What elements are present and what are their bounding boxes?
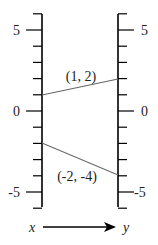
left-tick-label-5: 5 xyxy=(13,23,20,38)
left-number-line: 5 0 -5 xyxy=(8,14,42,208)
arrow-to-label: y xyxy=(121,220,130,235)
right-number-line: 5 0 -5 xyxy=(118,14,148,208)
mapping-lines: (1, 2) (-2, -4) xyxy=(42,69,118,185)
right-tick-label-neg5: -5 xyxy=(134,185,146,200)
direction-arrow: x y xyxy=(28,220,130,235)
right-tick-label-5: 5 xyxy=(141,23,148,38)
mapping-label-2: (-2, -4) xyxy=(57,169,97,185)
left-tick-label-0: 0 xyxy=(13,104,20,119)
mapping-diagram: 5 0 -5 5 0 -5 (1, 2) (-2, -4) x y xyxy=(0,0,158,245)
right-tick-label-0: 0 xyxy=(141,104,148,119)
right-axis-ticks xyxy=(118,14,134,208)
arrow-from-label: x xyxy=(28,220,36,235)
left-tick-label-neg5: -5 xyxy=(8,185,20,200)
mapping-label-1: (1, 2) xyxy=(66,69,97,85)
left-axis-ticks xyxy=(26,14,42,208)
